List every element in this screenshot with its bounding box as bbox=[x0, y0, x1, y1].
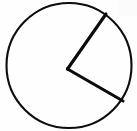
sector-vertex-point bbox=[66, 68, 69, 71]
corner-tint-top-right bbox=[118, 0, 137, 16]
figure-container: Circle with central angle sector A plain… bbox=[0, 0, 137, 131]
circle-sector-diagram bbox=[0, 0, 137, 131]
